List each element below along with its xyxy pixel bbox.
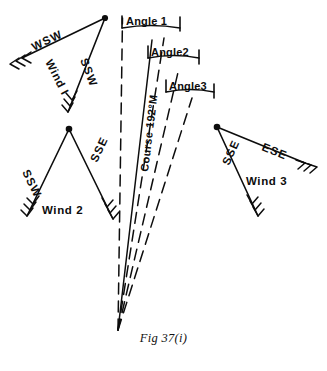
wind-2-sse-label: SSE [88,135,110,164]
figure-caption: Fig 37(i) [0,331,327,346]
track-ray-1-dashed [118,38,164,330]
ray-fan [118,18,192,330]
wind-3-group: ESE SSE Wind 3 [214,124,317,216]
wind-1-ssw-label: SSW [78,56,100,88]
wind-3-ese-arrowhead [296,160,317,173]
meridian-ray-dashed [118,18,123,330]
wind-3-ese-label: ESE [260,141,289,162]
wind-2-sse-arrowhead [102,198,119,219]
wind-2-ssw-arrowhead [21,196,39,216]
wind-2-ssw-label: SSW [20,168,44,200]
angle-2-bracket: Angle2 [148,46,199,64]
wind-1-name-label: Wind I [43,57,71,96]
angle-2-label: Angle2 [151,46,189,58]
angle-3-label: Angle3 [169,80,207,92]
wind-2-name-label: Wind 2 [42,204,83,216]
wind-1-wsw-label: WSW [30,28,65,53]
wind-2-vertex-dot [66,126,73,133]
figure-container: Angle 1 Angle2 Angle3 Course 192°M [0,0,327,371]
course-ray-solid [118,40,152,330]
wind-1-group: WSW SSW Wind I [10,15,108,112]
wind-2-group: SSW SSE Wind 2 [20,126,119,219]
wind-3-sse-label: SSE [220,138,242,167]
wind-3-vertex-dot [214,124,221,131]
diagram-canvas: Angle 1 Angle2 Angle3 Course 192°M [0,0,327,371]
angle-1-bracket: Angle 1 [122,15,180,31]
wind-1-vertex-dot [102,15,108,21]
wind-1-wsw-arrowhead [10,52,31,69]
wind-3-sse-arrowhead [247,195,264,216]
angle-1-label: Angle 1 [126,15,167,27]
track-ray-3-dashed [118,98,192,330]
wind-3-name-label: Wind 3 [246,175,287,187]
